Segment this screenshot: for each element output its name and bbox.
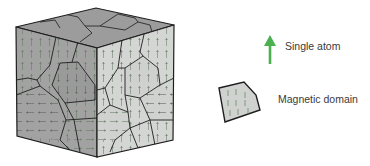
green-up-arrow-icon xyxy=(264,35,276,64)
domain-polygon-icon xyxy=(219,82,260,122)
cube-right-face xyxy=(97,25,174,157)
cube-left-face xyxy=(16,27,97,157)
magnetic-domain-diagram xyxy=(0,0,370,166)
legend-label-magnetic-domain: Magnetic domain xyxy=(278,93,358,105)
legend-label-single-atom: Single atom xyxy=(285,40,340,52)
